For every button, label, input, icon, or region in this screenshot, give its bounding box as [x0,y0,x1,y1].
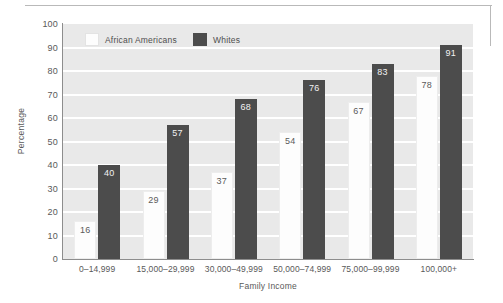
bar-african-americans: 54 [279,132,301,259]
bar-value-label: 78 [417,81,437,90]
bar-african-americans: 29 [143,191,165,259]
y-axis-tick-label: 90 [6,44,58,53]
bar-value-label: 57 [167,129,189,138]
bar-value-label: 83 [372,68,394,77]
bar-whites: 76 [303,80,325,259]
y-axis-ticks: 1009080706050403020100 [0,0,58,303]
y-axis-tick-label: 50 [6,138,58,147]
y-axis-tick-label: 20 [6,208,58,217]
x-axis-line [62,259,474,260]
gridline [63,235,473,237]
legend-label-african-americans: African Americans [105,35,177,45]
y-axis-tick-label: 100 [6,20,58,29]
bar-african-americans: 78 [416,76,438,259]
gridline [63,211,473,213]
legend-label-whites: Whites [213,35,240,45]
gridline [63,141,473,143]
y-axis-tick-label: 0 [6,255,58,264]
bar-african-americans: 16 [74,221,96,259]
bar-value-label: 91 [440,49,462,58]
y-axis-tick-label: 10 [6,232,58,241]
bar-value-label: 37 [212,177,232,186]
bar-whites: 57 [167,125,189,259]
x-axis-title: Family Income [63,281,473,291]
gridline [63,188,473,190]
legend-swatch-icon-whites [193,33,207,46]
y-axis-line [62,23,63,260]
bar-value-label: 40 [98,169,120,178]
y-axis-tick-label: 30 [6,185,58,194]
gridline [63,164,473,166]
bar-whites: 83 [372,64,394,259]
bar-chart: 1009080706050403020100 Percentage Africa… [0,0,503,303]
y-axis-title: Percentage [16,101,26,161]
bar-value-label: 68 [235,103,257,112]
x-axis-tick-label: 100,000+ [389,264,489,274]
bar-african-americans: 37 [211,172,233,259]
bar-value-label: 76 [303,84,325,93]
bar-value-label: 54 [280,137,300,146]
bar-value-label: 67 [349,107,369,116]
y-axis-tick-label: 60 [6,114,58,123]
bar-african-americans: 67 [348,102,370,259]
legend-item-african-americans: African Americans [85,33,177,46]
y-axis-tick-label: 40 [6,161,58,170]
legend-swatch-icon-african-americans [85,33,99,46]
bar-value-label: 29 [144,196,164,205]
bar-value-label: 16 [75,226,95,235]
bar-whites: 40 [98,165,120,259]
y-axis-tick-label: 80 [6,67,58,76]
bar-whites: 91 [440,45,462,259]
gridline [63,94,473,96]
gridline [63,70,473,72]
legend-item-whites: Whites [193,33,240,46]
gridline [63,117,473,119]
plot-area [63,24,473,259]
bar-whites: 68 [235,99,257,259]
gridline [63,47,473,49]
y-axis-tick-label: 70 [6,91,58,100]
